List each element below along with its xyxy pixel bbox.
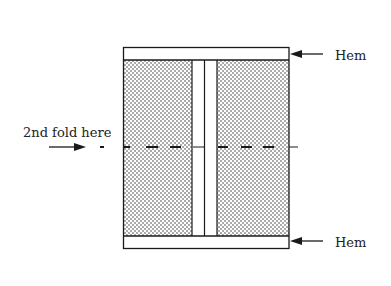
fabric-fold-diagram — [0, 0, 391, 286]
hem-bottom-label: Hem — [335, 236, 366, 249]
hem-bottom-arrow-icon — [290, 237, 323, 245]
hem-top-label: Hem — [335, 49, 366, 62]
fold-arrow-icon — [49, 143, 86, 151]
fold-label: 2nd fold here — [23, 126, 111, 139]
hem-top-arrow-icon — [290, 50, 323, 58]
